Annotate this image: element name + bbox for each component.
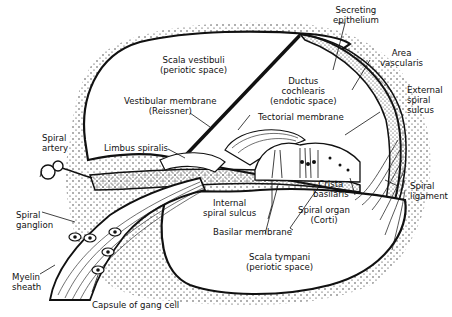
label-line: sheath: [12, 282, 41, 292]
label-line: Tectorial membrane: [258, 112, 344, 122]
label-area-vascularis: Area vascularis: [380, 48, 423, 68]
label-line: Basilar membrane: [213, 227, 292, 237]
label-line: Vestibular membrane: [124, 96, 217, 106]
label-line: epithelium: [333, 15, 379, 25]
label-line: ganglion: [16, 220, 53, 230]
label-scala-vestibuli: Scala vestibuli (periotic space): [160, 55, 227, 75]
label-ductus-cochlearis: Ductus cochlearis (endotic space): [270, 76, 337, 106]
label-line: spiral sulcus: [203, 208, 256, 218]
cochlear-duct-diagram: Secreting epithelium Area vascularis Sca…: [0, 0, 452, 317]
label-line: Myelin: [12, 272, 41, 282]
label-line: Spiral: [42, 133, 68, 143]
label-line: (Corti): [298, 215, 350, 225]
label-line: Scala vestibuli: [160, 55, 227, 65]
label-line: Spiral organ: [298, 205, 350, 215]
label-spiral-organ: Spiral organ (Corti): [298, 205, 350, 225]
label-internal-spiral-sulcus: Internal spiral sulcus: [203, 198, 256, 218]
label-line: Crista: [313, 179, 349, 189]
label-line: Limbus spiralis: [104, 143, 168, 153]
label-line: basilaris: [313, 189, 349, 199]
label-tectorial-membrane: Tectorial membrane: [258, 112, 344, 122]
label-line: cochlearis: [270, 86, 337, 96]
label-external-spiral-sulcus: External spiral sulcus: [407, 85, 443, 115]
label-line: Spiral: [410, 181, 448, 191]
label-line: Capsule of gang cell: [92, 300, 179, 310]
label-scala-tympani: Scala tympani (periotic space): [246, 252, 313, 272]
label-line: Ductus: [270, 76, 337, 86]
label-spiral-ganglion: Spiral ganglion: [16, 210, 53, 230]
label-line: (Reissner): [124, 106, 217, 116]
label-line: ligament: [410, 191, 448, 201]
label-line: artery: [42, 143, 68, 153]
label-line: Area: [380, 48, 423, 58]
label-capsule-gang-cell: Capsule of gang cell: [92, 300, 179, 310]
label-line: External: [407, 85, 443, 95]
label-line: vascularis: [380, 58, 423, 68]
label-myelin-sheath: Myelin sheath: [12, 272, 41, 292]
label-line: (periotic space): [160, 65, 227, 75]
label-spiral-ligament: Spiral ligament: [410, 181, 448, 201]
label-basilar-membrane: Basilar membrane: [213, 227, 292, 237]
label-line: spiral: [407, 95, 443, 105]
label-line: Scala tympani: [246, 252, 313, 262]
label-secreting-epithelium: Secreting epithelium: [333, 5, 379, 25]
label-spiral-artery: Spiral artery: [42, 133, 68, 153]
label-line: sulcus: [407, 105, 443, 115]
label-line: (periotic space): [246, 262, 313, 272]
label-line: Secreting: [333, 5, 379, 15]
label-line: (endotic space): [270, 96, 337, 106]
label-line: Spiral: [16, 210, 53, 220]
label-vestibular-membrane: Vestibular membrane (Reissner): [124, 96, 217, 116]
label-crista-basilaris: Crista basilaris: [313, 179, 349, 199]
spiral-artery-shape: [41, 161, 63, 179]
label-limbus-spiralis: Limbus spiralis: [104, 143, 168, 153]
label-line: Internal: [203, 198, 256, 208]
